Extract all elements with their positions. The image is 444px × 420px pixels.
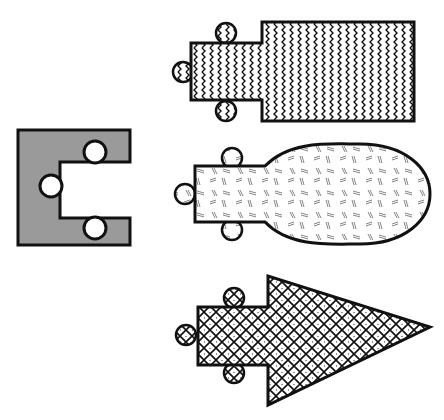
knob-top bbox=[216, 23, 236, 43]
dash-shape bbox=[175, 144, 430, 244]
knob-left bbox=[175, 184, 195, 204]
knob-bottom bbox=[216, 101, 236, 121]
c-shape bbox=[18, 130, 130, 245]
figure-canvas bbox=[0, 0, 444, 420]
zigzag-shape bbox=[173, 22, 414, 121]
arrow-shape bbox=[176, 276, 430, 405]
notch-left bbox=[40, 175, 62, 197]
notch-bottom bbox=[84, 217, 106, 239]
notch-top bbox=[84, 141, 106, 163]
knob-top bbox=[224, 288, 244, 308]
knob-left bbox=[176, 325, 196, 345]
